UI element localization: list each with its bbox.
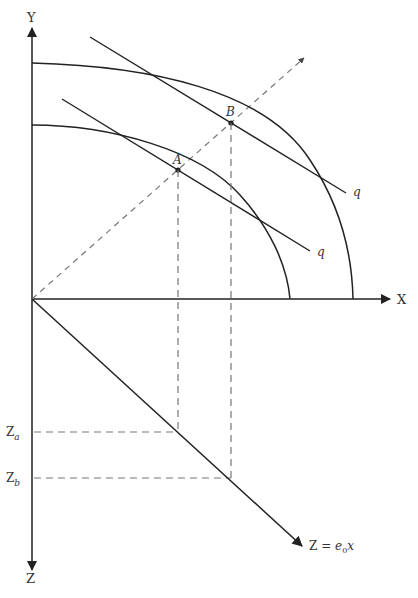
x-axis-label: X bbox=[397, 292, 407, 307]
tangent-lower-label: q bbox=[317, 245, 325, 259]
emission-line-label: Z = e0x bbox=[309, 539, 354, 555]
diagram-canvas: Y X Z B A q q Za Zb Z = e0x bbox=[0, 0, 418, 598]
ray-dashed bbox=[32, 58, 304, 299]
inner-curve bbox=[32, 125, 290, 299]
tangent-upper-label: q bbox=[353, 185, 361, 199]
z-axis-label: Z bbox=[26, 571, 35, 586]
tangent-upper bbox=[90, 37, 346, 193]
zb-label: Zb bbox=[6, 471, 20, 488]
emission-line bbox=[32, 299, 302, 546]
y-axis-label: Y bbox=[26, 10, 36, 25]
point-b-label: B bbox=[225, 105, 235, 119]
outer-curve bbox=[32, 63, 353, 299]
point-a-label: A bbox=[172, 153, 182, 167]
za-label: Za bbox=[6, 425, 20, 442]
